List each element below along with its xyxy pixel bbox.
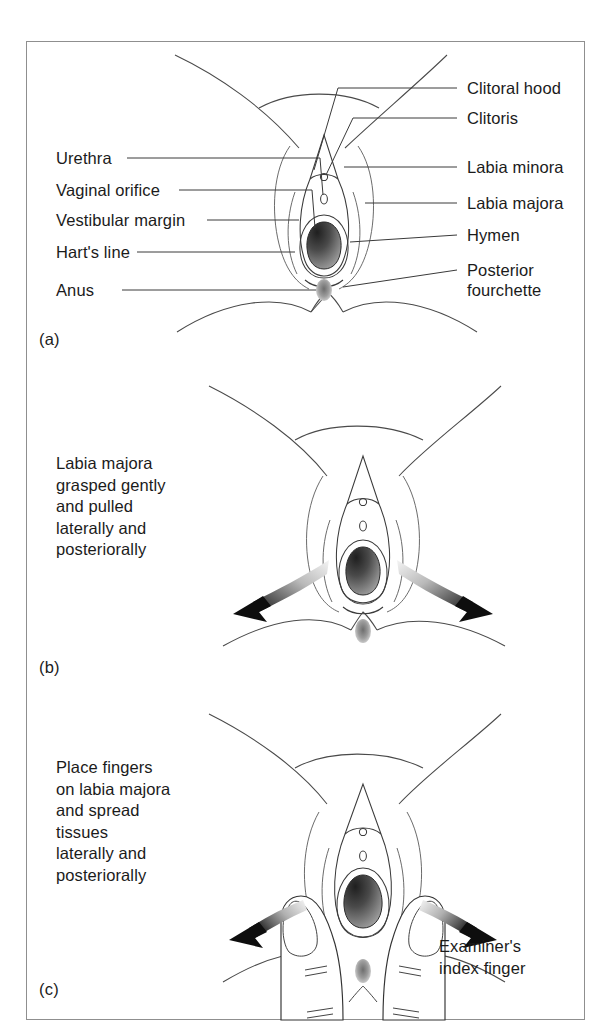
labia-majora-right-c [407, 812, 422, 910]
label-posterior-fourchette-line1: Posterior [467, 260, 534, 280]
labia-majora-left [274, 146, 309, 289]
urethral-meatus-c [360, 851, 367, 861]
vaginal-orifice-c [344, 875, 382, 928]
label-urethra: Urethra [56, 148, 112, 168]
label-vaginal-orifice: Vaginal orifice [56, 180, 160, 200]
leader-clitoris-2 [326, 118, 353, 175]
label-labia-majora: Labia majora [467, 193, 564, 213]
anus-stipple-b [355, 619, 371, 643]
clitoral-hood-fold-b [347, 499, 379, 504]
clitoris-glans-c [359, 828, 366, 835]
harts-line-arc [351, 192, 360, 274]
label-hymen: Hymen [467, 225, 520, 245]
leader-hymen [350, 235, 457, 242]
labia-majora-right-b [387, 476, 419, 612]
panel-a-tag: (a) [39, 330, 60, 349]
right-traction-arrowhead [455, 596, 493, 622]
panel-c-tag: (c) [39, 980, 59, 999]
panel-b-tag: (b) [39, 658, 60, 677]
panel-c: (c) Place fingers on labia majora and sp… [27, 694, 584, 1020]
panel-b: (b) Labia majora grasped gently and pull… [27, 364, 584, 694]
left-traction-arrowhead [233, 596, 271, 622]
leader-post-fourchette [343, 270, 457, 287]
label-anus: Anus [56, 280, 94, 300]
anus-stipple [316, 279, 332, 301]
label-labia-minora: Labia minora [467, 157, 564, 177]
anus-stipple-c [355, 959, 371, 983]
vaginal-orifice [307, 222, 341, 269]
label-clitoris: Clitoris [467, 108, 518, 128]
left-spread-arrowhead [229, 922, 267, 948]
vestibular-margin-arc [288, 192, 297, 274]
perineum-notch [349, 986, 377, 1002]
labia-majora-left-b [307, 476, 339, 612]
label-posterior-fourchette-line2: fourchette [467, 280, 541, 300]
label-vestibular-margin: Vestibular margin [56, 210, 185, 230]
clitoris-glans-b [359, 498, 366, 505]
urethral-meatus-b [360, 521, 367, 531]
leader-vaginal-drop [312, 190, 315, 228]
figure-frame: (a) Urethra Vaginal orifice Vestibular m… [26, 41, 585, 1020]
panel-c-caption: Place fingers on labia majora and spread… [56, 757, 266, 886]
labia-majora-left-c [304, 812, 319, 910]
panel-b-caption: Labia majora grasped gently and pulled l… [56, 453, 256, 561]
urethral-meatus [321, 194, 328, 204]
label-clitoral-hood: Clitoral hood [467, 78, 561, 98]
label-harts-line: Hart's line [56, 242, 130, 262]
vulva-anatomy-b [307, 456, 420, 614]
clitoral-hood-fold [310, 175, 338, 180]
panel-a: (a) Urethra Vaginal orifice Vestibular m… [27, 42, 584, 364]
examiner-index-finger-annotation: Examiner's index finger [439, 936, 579, 979]
vaginal-orifice-b [346, 547, 380, 595]
